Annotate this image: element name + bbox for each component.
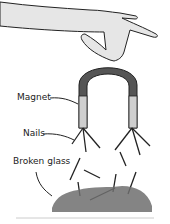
magnet-label: Magnet — [17, 92, 51, 102]
magnet-diagram: Magnet Nails Broken glass — [0, 0, 170, 224]
broken-glass-pile — [52, 186, 152, 212]
illustration — [0, 0, 170, 224]
broken-glass-label: Broken glass — [13, 156, 70, 166]
label-arrows — [36, 98, 78, 196]
nails-label: Nails — [23, 128, 45, 138]
horseshoe-magnet — [79, 68, 137, 128]
hand-illustration — [0, 2, 157, 61]
